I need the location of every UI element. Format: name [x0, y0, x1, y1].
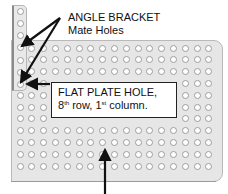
plate-hole	[194, 68, 201, 75]
bracket-hole	[17, 44, 24, 51]
plate-hole	[170, 151, 177, 158]
plate-hole	[123, 163, 130, 170]
plate-hole	[52, 139, 59, 146]
plate-hole	[194, 104, 201, 111]
flat-plate-hole-callout: FLAT PLATE HOLE, 8th row, 1st column.	[51, 82, 177, 118]
plate-hole	[76, 163, 83, 170]
plate-hole	[205, 45, 212, 52]
column-text: column.	[106, 99, 148, 111]
plate-hole	[111, 163, 118, 170]
plate-hole	[64, 139, 71, 146]
plate-hole	[17, 92, 24, 99]
bracket-hole	[17, 81, 24, 88]
plate-hole	[28, 45, 35, 52]
plate-hole	[52, 45, 59, 52]
plate-hole	[123, 151, 130, 158]
plate-hole	[99, 139, 106, 146]
plate-hole	[28, 163, 35, 170]
flat-plate-bottom-edge	[11, 181, 216, 182]
bracket-hole	[17, 20, 24, 27]
plate-hole	[99, 151, 106, 158]
plate-hole	[40, 92, 47, 99]
plate-hole	[135, 56, 142, 63]
plate-hole	[205, 104, 212, 111]
plate-hole	[146, 45, 153, 52]
plate-hole	[111, 151, 118, 158]
plate-hole	[170, 127, 177, 134]
plate-hole	[40, 104, 47, 111]
plate-hole	[182, 163, 189, 170]
plate-hole	[146, 163, 153, 170]
plate-hole	[76, 151, 83, 158]
plate-hole	[40, 151, 47, 158]
plate-hole	[135, 151, 142, 158]
plate-hole	[17, 151, 24, 158]
plate-hole	[76, 68, 83, 75]
plate-hole	[182, 80, 189, 87]
plate-hole	[182, 151, 189, 158]
plate-hole	[64, 68, 71, 75]
angle-bracket-subtitle: Mate Holes	[68, 24, 160, 37]
plate-hole	[135, 127, 142, 134]
plate-hole	[64, 56, 71, 63]
plate-hole	[17, 139, 24, 146]
plate-hole	[87, 163, 94, 170]
plate-hole	[52, 151, 59, 158]
plate-hole	[194, 92, 201, 99]
plate-hole	[76, 127, 83, 134]
plate-hole	[182, 45, 189, 52]
plate-hole	[123, 139, 130, 146]
plate-hole	[111, 127, 118, 134]
plate-hole	[17, 127, 24, 134]
plate-hole	[158, 139, 165, 146]
plate-hole	[170, 45, 177, 52]
plate-hole	[205, 92, 212, 99]
plate-hole	[170, 68, 177, 75]
plate-hole	[123, 68, 130, 75]
plate-hole	[87, 45, 94, 52]
plate-hole	[123, 45, 130, 52]
plate-hole	[182, 56, 189, 63]
bracket-hole	[17, 69, 24, 76]
plate-hole	[205, 163, 212, 170]
plate-hole	[194, 56, 201, 63]
plate-hole	[135, 139, 142, 146]
plate-hole	[40, 80, 47, 87]
plate-hole	[76, 56, 83, 63]
plate-hole	[158, 151, 165, 158]
plate-hole	[40, 45, 47, 52]
plate-hole	[182, 139, 189, 146]
plate-hole	[64, 127, 71, 134]
plate-hole	[194, 45, 201, 52]
plate-hole	[194, 151, 201, 158]
plate-hole	[205, 151, 212, 158]
plate-hole	[111, 68, 118, 75]
plate-hole	[64, 45, 71, 52]
plate-hole	[182, 104, 189, 111]
bracket-hole	[17, 57, 24, 64]
plate-hole	[64, 163, 71, 170]
plate-hole	[17, 104, 24, 111]
bracket-hole	[17, 32, 24, 39]
plate-hole	[40, 139, 47, 146]
plate-hole	[111, 139, 118, 146]
plate-hole	[182, 115, 189, 122]
plate-hole	[135, 163, 142, 170]
plate-hole	[194, 127, 201, 134]
plate-hole	[123, 56, 130, 63]
plate-hole	[64, 151, 71, 158]
plate-hole	[87, 151, 94, 158]
plate-hole	[158, 45, 165, 52]
plate-hole	[40, 163, 47, 170]
plate-hole	[170, 139, 177, 146]
angle-bracket-label: ANGLE BRACKET Mate Holes	[68, 11, 160, 37]
plate-hole	[146, 151, 153, 158]
plate-hole	[194, 80, 201, 87]
plate-hole	[182, 127, 189, 134]
plate-hole	[182, 92, 189, 99]
plate-hole	[194, 163, 201, 170]
plate-hole	[99, 163, 106, 170]
plate-hole	[28, 92, 35, 99]
plate-hole	[17, 163, 24, 170]
callout-line-1: FLAT PLATE HOLE,	[58, 86, 176, 99]
